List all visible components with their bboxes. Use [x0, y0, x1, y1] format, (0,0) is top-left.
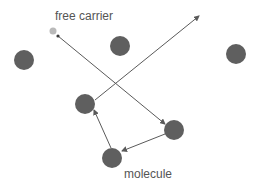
path-arrow-4 — [95, 16, 199, 100]
molecule-m4 — [75, 94, 95, 114]
free-carrier-dot — [50, 28, 57, 35]
molecule-m6 — [102, 148, 122, 168]
molecule-m1 — [14, 50, 34, 70]
molecule-label: molecule — [124, 168, 172, 180]
path-arrow-3 — [94, 110, 111, 148]
path-arrow-2 — [122, 134, 165, 151]
carrier-scattering-diagram — [0, 0, 262, 184]
path-start-dot — [56, 34, 59, 37]
free-carrier-label: free carrier — [55, 10, 113, 22]
molecule-m5 — [164, 120, 184, 140]
molecule-m2 — [110, 36, 130, 56]
molecule-m3 — [226, 44, 246, 64]
